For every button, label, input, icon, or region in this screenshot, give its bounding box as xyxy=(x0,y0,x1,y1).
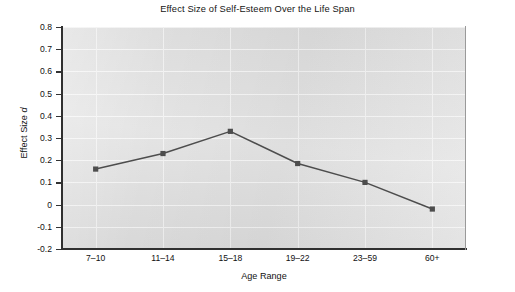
y-axis-tick-label: 0.6 xyxy=(40,66,52,76)
y-axis-tick-label: 0 xyxy=(47,200,52,210)
x-axis-tick-label: 23–59 xyxy=(353,253,377,263)
y-axis-tick-label: 0.5 xyxy=(40,89,52,99)
chart-title: Effect Size of Self-Esteem Over the Life… xyxy=(0,4,515,14)
y-axis-tick xyxy=(56,205,61,206)
y-axis-tick xyxy=(56,27,61,28)
y-axis-tick-label: 0.4 xyxy=(40,111,52,121)
y-axis-tick-label: 0.2 xyxy=(40,155,52,165)
y-axis-tick xyxy=(56,160,61,161)
y-axis-tick-label: 0.3 xyxy=(40,133,52,143)
y-axis-tick xyxy=(56,182,61,183)
data-point-marker xyxy=(160,151,165,156)
data-point-marker xyxy=(430,206,435,211)
y-axis-title: Effect Size d xyxy=(19,63,29,203)
data-series-line xyxy=(62,27,466,249)
x-axis-tick-label: 19–22 xyxy=(286,253,310,263)
y-axis-tick xyxy=(56,249,61,250)
y-axis-title-text: Effect Size xyxy=(19,113,29,159)
x-axis-title: Age Range xyxy=(62,271,466,281)
y-axis-tick-label: 0.1 xyxy=(40,177,52,187)
data-point-marker xyxy=(93,166,98,171)
x-axis-tick-label: 15–18 xyxy=(218,253,242,263)
x-axis-tick-label: 11–14 xyxy=(151,253,174,263)
y-axis-tick-label: 0.7 xyxy=(40,44,52,54)
series-polyline xyxy=(96,131,433,209)
x-axis-tick-label: 7–10 xyxy=(86,253,105,263)
x-axis-tick-label: 60+ xyxy=(425,253,440,263)
y-axis-tick xyxy=(56,49,61,50)
data-point-marker xyxy=(228,129,233,134)
y-axis-tick xyxy=(56,71,61,72)
y-axis-tick-label: -0.2 xyxy=(37,244,52,254)
data-point-marker xyxy=(295,161,300,166)
y-axis-tick xyxy=(56,94,61,95)
y-axis-tick xyxy=(56,116,61,117)
y-axis-tick xyxy=(56,227,61,228)
data-point-marker xyxy=(362,180,367,185)
y-axis-tick-label: -0.1 xyxy=(37,222,52,232)
y-axis-title-symbol: d xyxy=(19,108,29,113)
y-axis-tick xyxy=(56,138,61,139)
y-axis-tick-label: 0.8 xyxy=(40,22,52,32)
chart-figure: Effect Size of Self-Esteem Over the Life… xyxy=(0,0,515,292)
